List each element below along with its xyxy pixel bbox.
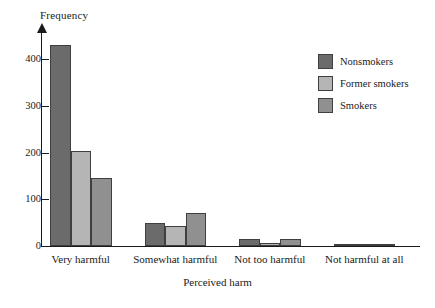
y-axis-tick-label: 200: [7, 147, 41, 158]
y-axis-tick-label: 400: [7, 54, 41, 65]
bar: [165, 226, 186, 246]
y-axis-tick-label: 300: [7, 101, 41, 112]
bar-group: [239, 31, 301, 246]
x-axis-category-label: Not too harmful: [234, 253, 305, 265]
legend-item: Smokers: [318, 96, 409, 115]
legend: NonsmokersFormer smokersSmokers: [318, 52, 409, 118]
bar: [50, 45, 71, 246]
x-axis-category-label: Not harmful at all: [325, 253, 404, 265]
x-axis-category-label: Very harmful: [52, 253, 110, 265]
legend-label: Smokers: [340, 100, 377, 111]
legend-swatch: [318, 98, 333, 113]
x-axis-category-label: Somewhat harmful: [133, 253, 217, 265]
x-axis-title: Perceived harm: [0, 276, 435, 288]
legend-item: Nonsmokers: [318, 52, 409, 71]
bar: [186, 213, 207, 246]
bar: [91, 178, 112, 246]
bar-chart: Frequency 0100200300400 Very harmfulSome…: [0, 0, 435, 308]
bar-group: [50, 31, 112, 246]
y-axis-title: Frequency: [40, 9, 88, 21]
legend-swatch: [318, 76, 333, 91]
legend-swatch: [318, 54, 333, 69]
bar-group: [145, 31, 207, 246]
legend-label: Nonsmokers: [340, 56, 393, 67]
y-axis-tick-label: 0: [7, 241, 41, 252]
bar: [71, 151, 92, 246]
bar: [145, 223, 166, 246]
x-axis-line: [41, 246, 420, 248]
legend-label: Former smokers: [340, 78, 409, 89]
y-axis-tick-label: 100: [7, 194, 41, 205]
legend-item: Former smokers: [318, 74, 409, 93]
